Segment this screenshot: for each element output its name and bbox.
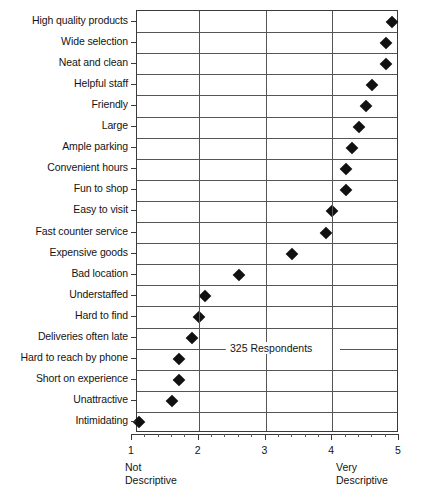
- gridline-horizontal: [137, 328, 397, 329]
- category-label: Ample parking: [62, 141, 128, 152]
- gridline-vertical: [266, 11, 267, 431]
- gridline-horizontal: [340, 349, 397, 350]
- gridline-horizontal: [137, 138, 397, 139]
- x-axis-tick-label: 1: [128, 444, 134, 456]
- y-axis-tick: [131, 42, 136, 43]
- gridline-horizontal: [137, 159, 397, 160]
- y-axis-tick: [131, 63, 136, 64]
- y-axis-tick: [131, 21, 136, 22]
- axis-label-not-descriptive-line1: Not: [125, 461, 177, 474]
- category-label: Large: [102, 120, 128, 131]
- x-axis-tick-label: 2: [195, 444, 201, 456]
- data-point-marker: [366, 78, 379, 91]
- category-label: Convenient hours: [47, 162, 128, 173]
- data-point-marker: [359, 100, 372, 113]
- category-label: Wide selection: [61, 36, 128, 47]
- category-label: Friendly: [91, 99, 128, 110]
- x-axis-minor-tick: [371, 434, 372, 437]
- gridline-horizontal: [137, 349, 238, 350]
- category-label: Understaffed: [69, 289, 128, 300]
- x-axis-minor-tick: [238, 434, 239, 437]
- x-axis-tick-label: 3: [262, 444, 268, 456]
- y-axis-tick: [131, 189, 136, 190]
- data-point-marker: [199, 289, 212, 302]
- gridline-horizontal: [137, 180, 397, 181]
- y-axis-tick: [131, 84, 136, 85]
- gridline-horizontal: [137, 53, 397, 54]
- chart-page: High quality productsWide selectionNeat …: [0, 0, 425, 496]
- y-axis-tick: [131, 253, 136, 254]
- category-label: Bad location: [71, 268, 128, 279]
- x-axis-minor-tick: [305, 434, 306, 437]
- x-axis-minor-tick: [385, 434, 386, 437]
- data-point-marker: [379, 57, 392, 70]
- y-axis-tick: [131, 126, 136, 127]
- category-label: Fun to shop: [74, 183, 128, 194]
- y-axis-tick: [131, 316, 136, 317]
- data-point-marker: [339, 163, 352, 176]
- y-axis-tick: [131, 421, 136, 422]
- respondents-annotation: 325 Respondents: [226, 342, 316, 354]
- category-label: Helpful staff: [74, 78, 128, 89]
- axis-label-not-descriptive-line2: Descriptive: [125, 474, 177, 487]
- data-point-marker: [166, 395, 179, 408]
- category-label: Hard to reach by phone: [20, 352, 128, 363]
- x-axis-tick: [198, 434, 199, 440]
- data-point-marker: [172, 353, 185, 366]
- gridline-horizontal: [137, 412, 397, 413]
- data-point-marker: [346, 142, 359, 155]
- category-label: Hard to find: [75, 310, 128, 321]
- y-axis-tick: [131, 358, 136, 359]
- gridline-horizontal: [137, 370, 397, 371]
- data-point-marker: [353, 121, 366, 134]
- category-label: Intimidating: [76, 415, 129, 426]
- category-label: Expensive goods: [50, 247, 128, 258]
- gridline-horizontal: [137, 117, 397, 118]
- category-label: High quality products: [32, 15, 128, 26]
- category-label: Neat and clean: [59, 57, 128, 68]
- x-axis-minor-tick: [358, 434, 359, 437]
- category-label: Easy to visit: [73, 204, 128, 215]
- x-axis-minor-tick: [211, 434, 212, 437]
- gridline-horizontal: [137, 222, 397, 223]
- x-axis-minor-tick: [144, 434, 145, 437]
- y-axis-tick: [131, 400, 136, 401]
- data-point-marker: [286, 247, 299, 260]
- gridline-vertical: [199, 11, 200, 431]
- gridline-horizontal: [137, 264, 397, 265]
- y-axis-tick: [131, 379, 136, 380]
- category-label: Deliveries often late: [38, 331, 128, 342]
- x-axis-minor-tick: [171, 434, 172, 437]
- gridline-horizontal: [137, 32, 397, 33]
- x-axis-tick-label: 5: [395, 444, 401, 456]
- category-axis-labels: High quality productsWide selectionNeat …: [0, 0, 128, 496]
- data-point-marker: [132, 416, 145, 429]
- y-axis-tick: [131, 105, 136, 106]
- y-axis-tick: [131, 274, 136, 275]
- y-axis-tick: [131, 147, 136, 148]
- data-point-marker: [339, 184, 352, 197]
- data-point-marker: [386, 15, 399, 28]
- gridline-horizontal: [137, 95, 397, 96]
- y-axis-tick: [131, 232, 136, 233]
- y-axis-tick: [131, 210, 136, 211]
- y-axis-tick: [131, 295, 136, 296]
- axis-label-very-descriptive-line2: Descriptive: [336, 474, 388, 487]
- y-axis-tick: [131, 337, 136, 338]
- x-axis-tick: [131, 434, 132, 440]
- x-axis-minor-tick: [291, 434, 292, 437]
- data-point-marker: [186, 332, 199, 345]
- gridline-horizontal: [137, 243, 397, 244]
- gridline-horizontal: [137, 201, 397, 202]
- axis-label-very-descriptive-line1: Very: [336, 461, 388, 474]
- gridline-horizontal: [137, 391, 397, 392]
- x-axis-minor-tick: [278, 434, 279, 437]
- x-axis-minor-tick: [224, 434, 225, 437]
- plot-area: [136, 10, 398, 432]
- data-point-marker: [319, 226, 332, 239]
- gridline-horizontal: [137, 285, 397, 286]
- data-point-marker: [172, 374, 185, 387]
- x-axis-minor-tick: [251, 434, 252, 437]
- x-axis-minor-tick: [184, 434, 185, 437]
- axis-label-very-descriptive: Very Descriptive: [336, 461, 388, 486]
